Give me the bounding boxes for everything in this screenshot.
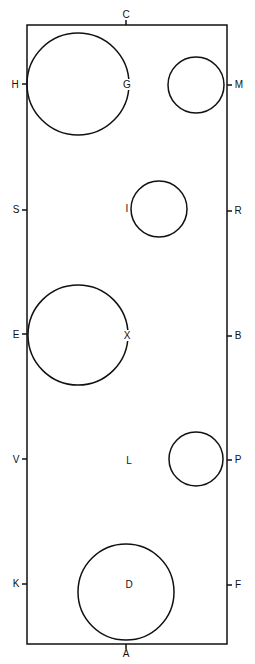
- circle-g: [27, 33, 129, 135]
- circle-e: [28, 285, 128, 385]
- circle-p: [169, 432, 223, 486]
- label-h: H: [11, 80, 18, 90]
- label-x: X: [124, 331, 131, 341]
- label-r: R: [234, 206, 241, 216]
- label-i: I: [126, 204, 129, 214]
- label-s: S: [13, 205, 20, 215]
- label-v: V: [13, 455, 20, 465]
- label-l: L: [126, 456, 132, 466]
- circle-d: [78, 544, 174, 640]
- circle-m: [168, 57, 224, 113]
- label-b: B: [235, 331, 242, 341]
- label-p: P: [235, 455, 242, 465]
- label-d: D: [125, 580, 132, 590]
- label-a: A: [123, 649, 130, 659]
- label-f: F: [235, 580, 241, 590]
- label-g: G: [123, 80, 131, 90]
- label-e: E: [13, 330, 20, 340]
- circle-i: [131, 181, 187, 237]
- label-c: C: [122, 10, 129, 20]
- label-m: M: [235, 80, 243, 90]
- label-k: K: [13, 579, 20, 589]
